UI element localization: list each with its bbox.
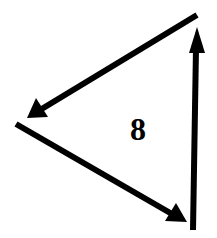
arrowhead-up-icon bbox=[189, 27, 205, 53]
top-arrow bbox=[27, 15, 197, 118]
diagram-canvas bbox=[0, 0, 217, 238]
right-arrow bbox=[189, 27, 205, 230]
bottom-arrow bbox=[16, 124, 187, 222]
center-number-label: 8 bbox=[124, 112, 152, 146]
arrow-triangle-diagram: 8 bbox=[0, 0, 217, 238]
